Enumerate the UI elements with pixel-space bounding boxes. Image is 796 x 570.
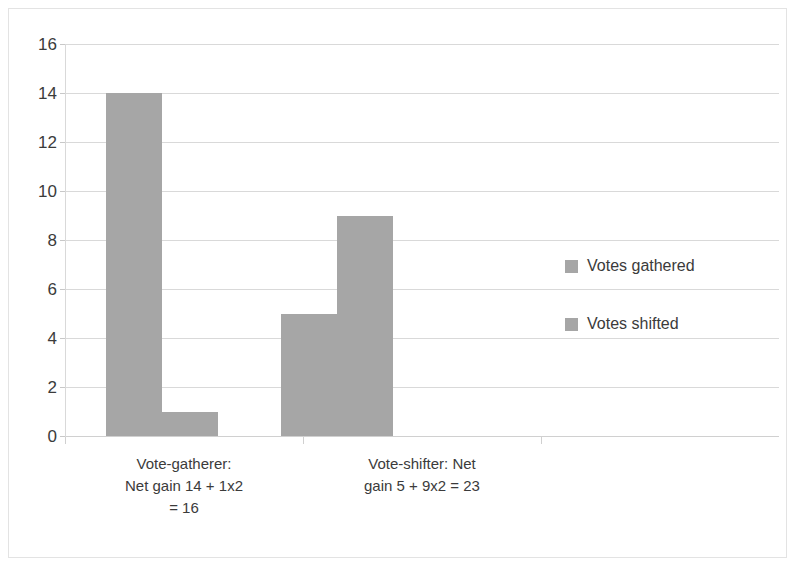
value-axis-line (65, 44, 66, 437)
ytick-6 (60, 289, 65, 290)
ytick-label-6: 6 (13, 281, 57, 298)
legend-entry-votes-shifted[interactable]: Votes shifted (565, 295, 775, 353)
bar-vote-shifter-votes-gathered[interactable] (281, 314, 337, 437)
ytick-12 (60, 142, 65, 143)
gridline-2 (65, 387, 779, 388)
category-label-line: Vote-gatherer: (65, 453, 303, 475)
bar-vote-gatherer-votes-gathered[interactable] (106, 93, 162, 436)
bar-vote-shifter-votes-shifted[interactable] (337, 216, 393, 437)
ytick-label-0: 0 (13, 428, 57, 445)
chart-legend: Votes gathered Votes shifted (565, 237, 775, 353)
ytick-8 (60, 240, 65, 241)
ytick-10 (60, 191, 65, 192)
ytick-4 (60, 338, 65, 339)
chart-frame: 16 14 12 10 8 6 4 2 0 Vote-gatherer: Net… (8, 8, 787, 558)
category-tick-start (65, 437, 66, 444)
ytick-label-2: 2 (13, 379, 57, 396)
legend-swatch-icon (565, 318, 578, 331)
legend-label: Votes gathered (587, 257, 695, 275)
category-label-line: = 16 (65, 497, 303, 519)
legend-label: Votes shifted (587, 315, 679, 333)
gridline-0-baseline (65, 436, 779, 437)
gridline-14 (65, 93, 779, 94)
category-tick-mid (303, 437, 304, 444)
category-label-line: Vote-shifter: Net (303, 453, 541, 475)
ytick-label-16: 16 (13, 36, 57, 53)
ytick-label-10: 10 (13, 183, 57, 200)
gridline-10 (65, 191, 779, 192)
category-label-line: gain 5 + 9x2 = 23 (303, 475, 541, 497)
category-label-vote-shifter: Vote-shifter: Net gain 5 + 9x2 = 23 (303, 453, 541, 497)
gridline-16 (65, 44, 779, 45)
value-axis-labels: 16 14 12 10 8 6 4 2 0 (9, 9, 57, 557)
category-tick-end (541, 437, 542, 444)
gridline-12 (65, 142, 779, 143)
ytick-label-8: 8 (13, 232, 57, 249)
ytick-16 (60, 44, 65, 45)
category-label-vote-gatherer: Vote-gatherer: Net gain 14 + 1x2 = 16 (65, 453, 303, 518)
category-label-line: Net gain 14 + 1x2 (65, 475, 303, 497)
legend-entry-votes-gathered[interactable]: Votes gathered (565, 237, 775, 295)
legend-swatch-icon (565, 260, 578, 273)
ytick-label-14: 14 (13, 85, 57, 102)
ytick-2 (60, 387, 65, 388)
ytick-label-12: 12 (13, 134, 57, 151)
ytick-label-4: 4 (13, 330, 57, 347)
bar-vote-gatherer-votes-shifted[interactable] (162, 412, 218, 437)
ytick-14 (60, 93, 65, 94)
